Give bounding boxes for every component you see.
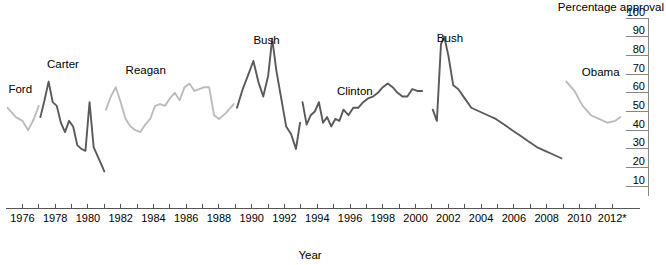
x-tick-label: 1992 (272, 212, 296, 224)
x-tick-label: 1978 (43, 212, 67, 224)
series-labels: FordCarterReaganBushClintonBushObama (8, 32, 620, 96)
series-label-bush-3: Bush (253, 34, 279, 46)
x-tick-label: 1996 (338, 212, 362, 224)
x-tick-label: 1988 (207, 212, 231, 224)
series-line-carter-1 (40, 82, 104, 172)
series-label-bush-5: Bush (437, 32, 463, 44)
series-label-obama-6: Obama (582, 66, 620, 78)
y-axis: 100908070605040302010 (626, 6, 648, 196)
y-tick-label: 60 (633, 80, 645, 92)
x-axis: 1976197819801982198419861988199019921994… (6, 204, 640, 224)
series-line-ford-0 (8, 106, 39, 130)
series-line-reagan-2 (106, 83, 234, 132)
y-tick-label: 20 (633, 155, 645, 167)
series-line-bush-3 (237, 39, 300, 149)
x-tick-label: 2006 (502, 212, 526, 224)
y-tick-label: 50 (633, 99, 645, 111)
x-tick-label: 1998 (371, 212, 395, 224)
series-label-ford-0: Ford (8, 83, 32, 95)
x-tick-label: 1984 (141, 212, 165, 224)
y-tick-label: 40 (633, 118, 645, 130)
x-tick-label: 1980 (76, 212, 100, 224)
x-tick-label: 2004 (469, 212, 493, 224)
x-tick-label: 1990 (240, 212, 264, 224)
x-tick-label: 1994 (305, 212, 329, 224)
series-label-reagan-2: Reagan (126, 64, 166, 76)
series-line-bush-5 (433, 37, 562, 159)
series-label-carter-1: Carter (47, 58, 79, 70)
y-tick-label: 100 (627, 6, 645, 18)
y-axis-title: Percentage approval (558, 1, 664, 13)
series-lines (8, 37, 621, 172)
x-tick-label: 2000 (403, 212, 427, 224)
x-tick-label: 2012* (598, 212, 627, 224)
x-tick-label: 1976 (10, 212, 34, 224)
y-tick-label: 10 (633, 174, 645, 186)
approval-rating-chart: Percentage approval 10090807060504030201… (0, 0, 666, 265)
x-tick-label: 2008 (534, 212, 558, 224)
chart-canvas: Percentage approval 10090807060504030201… (0, 0, 666, 265)
x-axis-title: Year (298, 249, 321, 261)
x-tick-label: 2002 (436, 212, 460, 224)
x-tick-label: 2010 (567, 212, 591, 224)
y-tick-label: 30 (633, 136, 645, 148)
y-tick-label: 70 (633, 62, 645, 74)
series-line-obama-6 (566, 82, 620, 123)
x-tick-label: 1982 (108, 212, 132, 224)
y-tick-label: 80 (633, 43, 645, 55)
series-label-clinton-4: Clinton (337, 85, 373, 97)
y-tick-label: 90 (633, 24, 645, 36)
x-tick-label: 1986 (174, 212, 198, 224)
